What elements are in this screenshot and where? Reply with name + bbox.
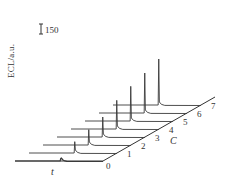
trace-0 (15, 158, 103, 162)
scale-bar-label: 150 (45, 25, 59, 35)
x-axis-label: t (51, 166, 54, 177)
trace-1 (29, 142, 117, 154)
c-tick-2: 2 (141, 141, 146, 151)
scale-bar (39, 24, 43, 34)
waterfall-chart: 01234567 (0, 0, 243, 184)
c-tick-4: 4 (169, 125, 174, 135)
c-tick-0: 0 (106, 161, 111, 171)
trace-5 (85, 86, 173, 121)
trace-6 (99, 73, 187, 114)
c-tick-6: 6 (197, 109, 202, 119)
c-tick-7: 7 (211, 101, 216, 111)
c-tick-1: 1 (127, 149, 132, 159)
c-tick-5: 5 (183, 117, 188, 127)
c-axis-ticks: 01234567 (106, 101, 216, 171)
traces (15, 59, 201, 162)
c-tick-3: 3 (155, 133, 160, 143)
trace-3 (57, 117, 145, 138)
y-axis-label: ECL/a.u. (6, 44, 16, 78)
c-axis-label: C (170, 135, 177, 146)
trace-7 (113, 59, 201, 106)
